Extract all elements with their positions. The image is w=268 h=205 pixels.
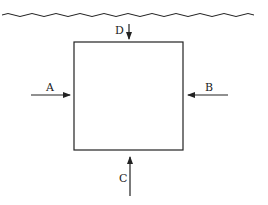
submerged-square [74,42,183,150]
force-label-d: D [115,24,124,37]
diagram-canvas: D A B C [0,0,268,205]
water-surface-line [2,14,254,17]
force-label-c: C [119,172,127,185]
force-label-b: B [205,81,213,94]
force-label-a: A [45,81,55,94]
